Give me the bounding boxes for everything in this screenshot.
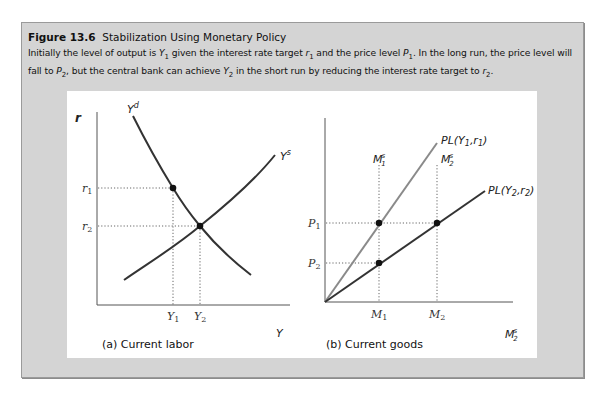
subscript: 2 bbox=[486, 71, 490, 79]
panel-b-caption: (b) Current goods bbox=[326, 338, 423, 351]
m2s-label: Ms2 bbox=[441, 152, 454, 168]
point-m1-p1 bbox=[376, 220, 383, 227]
panel-a-y-label: r bbox=[75, 111, 82, 125]
m1-label: M1 bbox=[370, 308, 387, 322]
pl-y1-r1-label: PL(Y1,r1) bbox=[441, 134, 487, 148]
panel-a-current-labor: r Yd Ys r1 r2 Y1 Y2 Y (a) Current labor bbox=[75, 101, 291, 351]
point-m1-p2 bbox=[376, 260, 383, 267]
yd-label: Yd bbox=[127, 101, 140, 116]
figure-number: Figure 13.6 bbox=[28, 31, 96, 43]
pl-y2-r2-line bbox=[325, 191, 485, 302]
pl-y2-r2-label: PL(Y2,r2) bbox=[488, 184, 534, 198]
subscript: 1 bbox=[409, 53, 413, 61]
panel-b-current-goods: PL(Y1,r1) PL(Y2,r2) Ms1 Ms2 P1 P2 M1 M2 … bbox=[307, 118, 534, 351]
chart-panel: r Yd Ys r1 r2 Y1 Y2 Y (a) Current labor bbox=[67, 91, 537, 358]
m2-label: M2 bbox=[428, 308, 445, 322]
point-y1-r1 bbox=[170, 185, 177, 192]
point-m2-p1 bbox=[434, 220, 441, 227]
figure-caption: Figure 13.6 Stabilization Using Monetary… bbox=[28, 30, 578, 82]
m1s-label: Ms1 bbox=[373, 152, 386, 168]
y2-label: Y2 bbox=[194, 310, 206, 324]
figure-description: Initially the level of output is Y1 give… bbox=[28, 46, 578, 82]
ys-curve bbox=[124, 155, 275, 280]
chart-svg: r Yd Ys r1 r2 Y1 Y2 Y (a) Current labor bbox=[67, 91, 537, 358]
p2-label: P2 bbox=[307, 257, 321, 271]
point-y2-r2 bbox=[197, 223, 204, 230]
r2-label: r2 bbox=[82, 220, 92, 234]
figure-title-text: Stabilization Using Monetary Policy bbox=[102, 31, 286, 43]
r1-label: r1 bbox=[82, 182, 92, 196]
figure-title: Figure 13.6 Stabilization Using Monetary… bbox=[28, 30, 578, 44]
y1-label: Y1 bbox=[167, 310, 179, 324]
subscript: 1 bbox=[309, 53, 313, 61]
ys-label: Ys bbox=[280, 148, 291, 163]
subscript: 2 bbox=[62, 71, 66, 79]
panel-a-caption: (a) Current labor bbox=[102, 338, 194, 351]
panel-a-x-label: Y bbox=[276, 327, 284, 340]
subscript: 1 bbox=[165, 53, 169, 61]
subscript: 2 bbox=[229, 71, 233, 79]
p1-label: P1 bbox=[307, 217, 321, 231]
yd-curve bbox=[133, 116, 251, 275]
panel-b-x-label: Ms2 bbox=[505, 327, 518, 343]
